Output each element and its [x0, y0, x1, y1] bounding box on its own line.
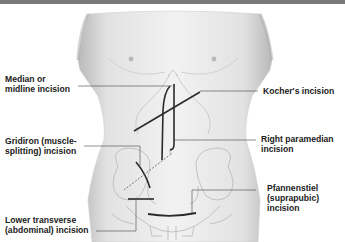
label-line: splitting) incision: [5, 146, 77, 156]
label-line: Gridiron (muscle-: [5, 136, 77, 146]
label-pfannenstiel-incision: Pfannenstiel (suprapubic) incision: [267, 183, 319, 213]
label-line: midline incision: [5, 84, 70, 94]
label-gridiron-incision: Gridiron (muscle- splitting) incision: [5, 136, 77, 156]
label-line: incision: [267, 203, 319, 213]
torso-silhouette: [78, 11, 272, 242]
label-median-incision: Median or midline incision: [5, 74, 70, 94]
left-nipple: [129, 57, 134, 62]
label-line: Lower transverse: [5, 215, 89, 225]
label-line: Right paramedian: [261, 134, 334, 144]
label-lower-transverse-incision: Lower transverse (abdominal) incision: [5, 215, 89, 235]
label-line: Pfannenstiel: [267, 183, 319, 193]
right-nipple: [212, 57, 217, 62]
label-line: (suprapubic): [267, 193, 319, 203]
label-line: Kocher's incision: [263, 86, 334, 96]
label-line: Median or: [5, 74, 70, 84]
label-line: incision: [261, 144, 334, 154]
label-right-paramedian-incision: Right paramedian incision: [261, 134, 334, 154]
label-line: (abdominal) incision: [5, 225, 89, 235]
label-kochers-incision: Kocher's incision: [263, 86, 334, 96]
